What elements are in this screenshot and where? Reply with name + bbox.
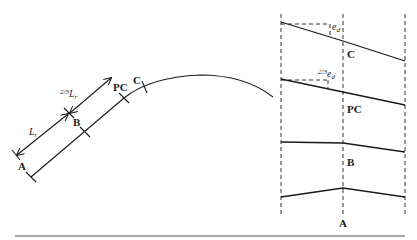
diagram-canvas: A B PC C Lr 2/3Lr ed C 2/3ed PC B A (0, 0, 417, 240)
label-C-section: C (347, 49, 355, 60)
label-B-section: B (347, 157, 354, 168)
dimension-tick-A (12, 150, 20, 160)
label-A-section: A (339, 218, 347, 229)
two-thirds-ed-subscript: d (331, 73, 335, 81)
ed-subscript: d (336, 26, 340, 34)
plan-view (12, 75, 273, 182)
label-B-plan: B (73, 117, 80, 128)
label-two-thirds-ed: 2/3ed (318, 69, 335, 81)
two-thirds-ed-fraction: 2/3 (318, 68, 327, 76)
profile-C (281, 22, 405, 61)
label-two-thirds-Lr: 2/3Lr (60, 89, 77, 101)
dimension-line-Lr (17, 114, 68, 155)
label-ed: ed (332, 22, 340, 34)
label-C-plan: C (133, 75, 141, 86)
diagram-svg (0, 0, 417, 240)
two-thirds-fraction: 2/3 (60, 88, 69, 96)
label-PC-plan: PC (113, 82, 128, 93)
label-PC-section: PC (347, 104, 362, 115)
cross-section-guides (281, 14, 405, 215)
label-Lr: Lr (29, 127, 37, 139)
Lr-subscript: r (35, 131, 38, 139)
label-A-plan: A (18, 161, 26, 172)
two-thirds-Lr-subscript: r (75, 93, 78, 101)
